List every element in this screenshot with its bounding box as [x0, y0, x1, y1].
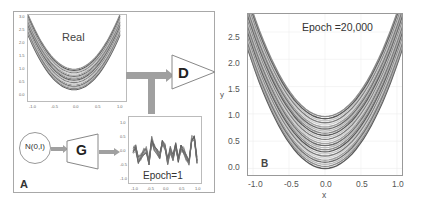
y-tick-label: 0.0 — [228, 162, 240, 172]
real-plot-curves — [28, 15, 126, 101]
x-tick-label: 0.0 — [163, 186, 169, 191]
noise-node-label: N(0,I) — [19, 142, 51, 151]
y-tick-label: -0.5 — [120, 162, 127, 167]
real-plot-title: Real — [62, 31, 85, 43]
y-tick-label: 1.0 — [228, 110, 240, 120]
y-tick-label: 2.0 — [19, 40, 25, 45]
y-tick-label: 0.0 — [19, 92, 25, 97]
discriminator-label: D — [178, 64, 189, 81]
y-tick-label: 1.5 — [228, 84, 240, 94]
y-tick-label: 0.5 — [228, 136, 240, 146]
y-tick-label: 1.0 — [120, 120, 126, 125]
x-tick-label: 1.0 — [195, 186, 201, 191]
x-tick-label: -1.0 — [248, 179, 263, 189]
generator-label: G — [76, 142, 87, 158]
panel-b-title: Epoch =20,000 — [302, 21, 373, 33]
x-tick-label: 0.5 — [356, 179, 368, 189]
panel-b-curves — [248, 14, 402, 175]
x-tick-label: 1.0 — [392, 179, 404, 189]
x-tick-label: 0.5 — [179, 186, 185, 191]
generated-plot-title: Epoch=1 — [143, 170, 183, 181]
x-tick-label: 0.0 — [73, 104, 79, 109]
y-tick-label: -1.0 — [120, 176, 127, 181]
panel-b-label: B — [261, 158, 268, 169]
y-tick-label: 2.0 — [228, 58, 240, 68]
y-tick-label: 1.0 — [19, 66, 25, 71]
x-tick-label: -0.5 — [284, 179, 299, 189]
x-tick-label: 1.0 — [117, 104, 123, 109]
x-tick-label: 0.0 — [320, 179, 332, 189]
panel-b-xlabel: x — [322, 190, 326, 200]
y-tick-label: 1.5 — [19, 53, 25, 58]
x-tick-label: -1.0 — [131, 186, 138, 191]
y-tick-label: 2.5 — [228, 32, 240, 42]
y-tick-label: 0.5 — [19, 79, 25, 84]
y-tick-label: 3.0 — [19, 14, 25, 19]
arrow-generator-to-samples — [99, 147, 121, 157]
x-tick-label: -0.5 — [147, 186, 154, 191]
panel-a-label: A — [20, 178, 28, 190]
panel-b-ylabel: y — [220, 90, 224, 99]
arrow-to-discriminator — [126, 66, 176, 116]
x-tick-label: 0.5 — [95, 104, 101, 109]
x-tick-label: -0.5 — [51, 104, 58, 109]
y-tick-label: 0.5 — [120, 134, 126, 139]
y-tick-label: 2.5 — [19, 27, 25, 32]
x-tick-label: -1.0 — [29, 104, 36, 109]
y-tick-label: 0.0 — [120, 148, 126, 153]
